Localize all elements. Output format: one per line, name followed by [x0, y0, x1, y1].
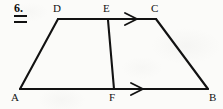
- vertex-label-B: B: [209, 92, 216, 103]
- segment-CB: [156, 19, 208, 89]
- vertex-label-E: E: [103, 3, 110, 14]
- segment-AD: [20, 19, 58, 89]
- segment-EF: [108, 20, 114, 89]
- vertex-label-A: A: [11, 92, 19, 103]
- vertex-label-C: C: [151, 3, 158, 14]
- vertex-label-D: D: [53, 3, 61, 14]
- vertex-label-F: F: [109, 92, 115, 103]
- figure-page: 6. D E C A F B: [0, 0, 223, 109]
